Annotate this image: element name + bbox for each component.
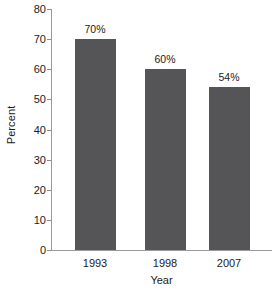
x-axis-tick-label: 1993 bbox=[83, 257, 107, 269]
bar-value-label: 70% bbox=[84, 24, 105, 35]
bar-value-label: 60% bbox=[154, 54, 175, 65]
bar bbox=[145, 69, 186, 250]
x-axis-tick-label: 1998 bbox=[153, 257, 177, 269]
y-axis-title: Percent bbox=[0, 0, 22, 250]
y-axis-tick-labels: 01020304050607080 bbox=[22, 0, 51, 298]
bar bbox=[75, 39, 116, 250]
bar-chart: Percent 01020304050607080 70%60%54% 1993… bbox=[0, 0, 276, 298]
bar-value-label: 54% bbox=[218, 72, 239, 83]
bar bbox=[209, 87, 250, 250]
x-axis-line bbox=[51, 250, 272, 251]
plot-area bbox=[51, 9, 272, 250]
x-axis-tick-label: 2007 bbox=[217, 257, 241, 269]
x-axis-title: Year bbox=[51, 274, 272, 286]
y-axis-title-text: Percent bbox=[5, 106, 17, 145]
